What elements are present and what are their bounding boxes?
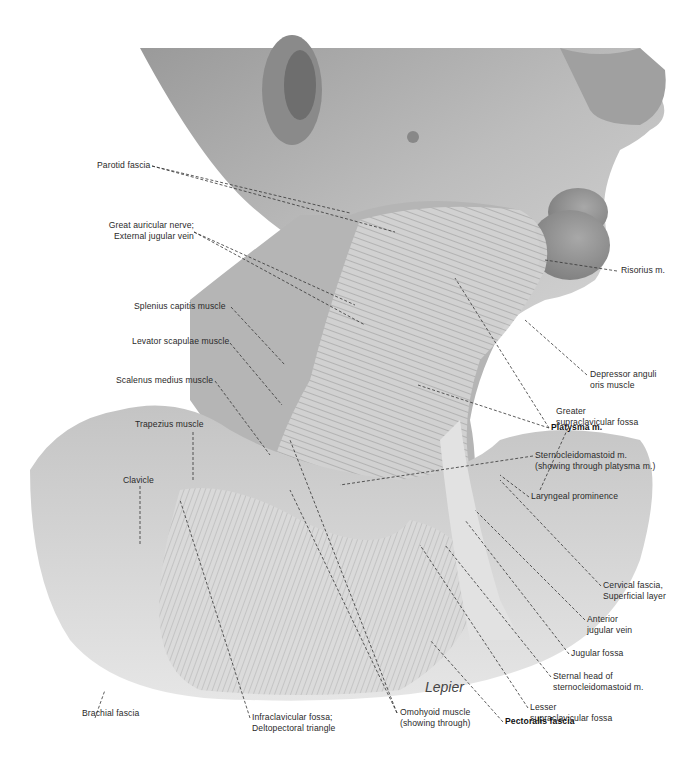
label-risorius: Risorius m. (621, 265, 665, 276)
label-line: oris muscle (590, 380, 657, 391)
label-pectoralis-fascia: Pectoralis fascia (505, 716, 575, 727)
label-line: supraclavicular fossa (556, 417, 638, 428)
label-anterior-jugular-vein: Anterior jugular vein (587, 614, 632, 635)
label-line: (showing through platysma m.) (535, 461, 655, 472)
label-line: sternocleidomastoid m. (553, 682, 644, 693)
label-line: Great auricular nerve; (90, 220, 194, 231)
label-line: Deltopectoral triangle (252, 723, 335, 734)
label-line: Cervical fascia, (603, 580, 666, 591)
label-line: Risorius m. (621, 265, 665, 276)
label-line: Trapezius muscle (135, 419, 204, 430)
label-line: Pectoralis fascia (505, 716, 575, 727)
label-line: Brachial fascia (82, 708, 139, 719)
label-parotid-fascia: Parotid fascia (97, 160, 150, 171)
label-line: Clavicle (123, 475, 154, 486)
label-greater-supraclavicular-fossa: Greater supraclavicular fossa (556, 406, 638, 427)
label-line: Laryngeal prominence (531, 491, 618, 502)
label-line: Levator scapulae muscle (132, 336, 229, 347)
artist-signature: Lepier (425, 679, 465, 695)
label-line: Infraclavicular fossa; (252, 712, 335, 723)
label-line: Scalenus medius muscle (116, 375, 213, 386)
label-line: Splenius capitis muscle (134, 301, 226, 312)
label-sternal-head: Sternal head of sternocleidomastoid m. (553, 671, 644, 692)
label-line: Sternal head of (553, 671, 644, 682)
label-laryngeal-prominence: Laryngeal prominence (531, 491, 618, 502)
label-omohyoid: Omohyoid muscle (showing through) (400, 707, 471, 728)
label-levator-scapulae: Levator scapulae muscle (132, 336, 229, 347)
label-cervical-fascia: Cervical fascia, Superficial layer (603, 580, 666, 601)
label-trapezius: Trapezius muscle (135, 419, 204, 430)
label-great-auricular-nerve: Great auricular nerve; External jugular … (90, 220, 194, 241)
label-line: (showing through) (400, 718, 471, 729)
label-depressor-anguli-oris: Depressor anguli oris muscle (590, 369, 657, 390)
label-line: Depressor anguli (590, 369, 657, 380)
label-line: Omohyoid muscle (400, 707, 471, 718)
label-clavicle: Clavicle (123, 475, 154, 486)
label-line: Superficial layer (603, 591, 666, 602)
label-line: jugular vein (587, 625, 632, 636)
label-line: Jugular fossa (571, 648, 623, 659)
label-splenius-capitis: Splenius capitis muscle (134, 301, 226, 312)
label-line: External jugular vein (90, 231, 194, 242)
label-brachial-fascia: Brachial fascia (82, 708, 139, 719)
label-scalenus-medius: Scalenus medius muscle (116, 375, 213, 386)
label-line: Greater (556, 406, 638, 417)
label-line: Parotid fascia (97, 160, 150, 171)
label-line: Sternocleidomastoid m. (535, 450, 655, 461)
label-sternocleidomastoid: Sternocleidomastoid m. (showing through … (535, 450, 655, 471)
label-line: Lesser (530, 702, 612, 713)
label-line: Anterior (587, 614, 632, 625)
label-infraclavicular-fossa: Infraclavicular fossa; Deltopectoral tri… (252, 712, 335, 733)
label-jugular-fossa: Jugular fossa (571, 648, 623, 659)
